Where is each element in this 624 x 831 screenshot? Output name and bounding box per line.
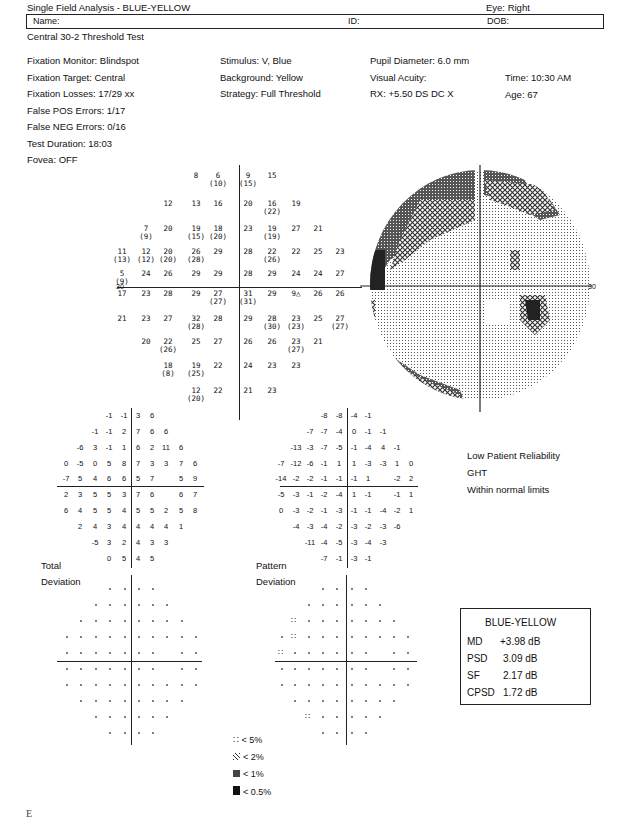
hatch-symbol-icon	[233, 753, 240, 760]
probability-dot	[138, 652, 140, 654]
patient-info-box: Name: ID: DOB:	[26, 14, 604, 29]
probability-dot	[308, 620, 310, 622]
threshold-value: 13	[185, 200, 207, 208]
probability-dot	[393, 684, 395, 686]
probability-symbol-5pct: ∷	[305, 713, 310, 721]
probability-dot	[181, 684, 183, 686]
probability-symbol-5pct: ∷	[291, 633, 296, 641]
ght-label: GHT	[467, 467, 487, 478]
deviation-value: 0	[347, 427, 361, 436]
probability-dot	[124, 716, 126, 718]
threshold-value: 25	[307, 248, 329, 256]
probability-dot	[109, 668, 111, 670]
probability-dot	[195, 684, 197, 686]
probability-dot	[195, 652, 197, 654]
deviation-value: -3	[376, 522, 390, 531]
threshold-value: 26(28)	[185, 248, 207, 264]
threshold-value: 23(27)	[285, 338, 307, 354]
probability-dot	[109, 732, 111, 734]
threshold-value: 20	[237, 200, 259, 208]
deviation-value: -1	[317, 506, 331, 515]
index-value: 2.17 dB	[503, 670, 537, 681]
threshold-value: 28	[157, 290, 179, 298]
deviation-value: -3	[376, 538, 390, 547]
threshold-value: 16(22)	[261, 200, 283, 216]
threshold-value: 29	[261, 270, 283, 278]
deviation-value: -1	[361, 427, 375, 436]
probability-dot	[109, 604, 111, 606]
probability-dot	[195, 636, 197, 638]
threshold-value: 25	[185, 338, 207, 346]
threshold-value: 22	[285, 248, 307, 256]
info-line: Fovea: OFF	[27, 154, 78, 165]
deviation-value: -3	[303, 522, 317, 531]
deviation-value: 7	[131, 490, 145, 499]
deviation-value: -1	[102, 427, 116, 436]
probability-dot	[152, 620, 154, 622]
deviation-value: -1	[102, 443, 116, 452]
threshold-value: 23	[329, 248, 351, 256]
deviation-value: 6	[188, 459, 202, 468]
deviation-value: 1	[347, 459, 361, 468]
deviation-value: 1	[404, 490, 418, 499]
deviation-value: 4	[131, 554, 145, 563]
threshold-value: 27(27)	[329, 315, 351, 331]
probability-dot	[322, 636, 324, 638]
probability-dot	[308, 636, 310, 638]
deviation-value: 5	[131, 506, 145, 515]
threshold-value: 18(8)	[157, 362, 179, 378]
probability-dot	[109, 716, 111, 718]
probability-dot	[351, 700, 353, 702]
deviation-value: 3	[102, 522, 116, 531]
deviation-value: 8	[117, 459, 131, 468]
probability-dot	[152, 668, 154, 670]
deviation-value: -4	[332, 490, 346, 499]
index-label: SF	[467, 670, 480, 681]
probability-dot	[138, 716, 140, 718]
deviation-value: 2	[404, 474, 418, 483]
deviation-value: -2	[390, 474, 404, 483]
threshold-value: 22	[207, 362, 229, 370]
solid-symbol-icon	[233, 786, 240, 795]
deviation-value: -11	[303, 538, 317, 547]
deviation-value: -1	[117, 411, 131, 420]
threshold-value: 22	[207, 387, 229, 395]
threshold-value: 27	[157, 315, 179, 323]
deviation-value: -6	[303, 459, 317, 468]
deviation-value: -1	[332, 554, 346, 563]
probability-dot	[109, 700, 111, 702]
deviation-value: 2	[117, 538, 131, 547]
probability-dot	[294, 652, 296, 654]
probability-dot	[109, 588, 111, 590]
deviation-value: -7	[59, 474, 73, 483]
deviation-value: -1	[361, 554, 375, 563]
threshold-value: 23	[261, 362, 283, 370]
probability-dot	[109, 652, 111, 654]
deviation-value: -3	[376, 459, 390, 468]
threshold-value: 19(25)	[185, 362, 207, 378]
probability-dot	[365, 588, 367, 590]
deviation-value: -7	[317, 443, 331, 452]
deviation-value: -2	[303, 506, 317, 515]
deviation-value: 0	[102, 554, 116, 563]
probability-dot	[365, 732, 367, 734]
probability-dot	[66, 668, 68, 670]
threshold-value: 18(20)	[207, 225, 229, 241]
dots-symbol-icon: ∷	[233, 735, 242, 745]
probability-dot	[80, 668, 82, 670]
probability-dot	[166, 700, 168, 702]
probability-dot	[80, 652, 82, 654]
deviation-value: -2	[332, 522, 346, 531]
probability-dot	[152, 604, 154, 606]
deviation-value: -5	[332, 443, 346, 452]
deviation-value: -7	[303, 427, 317, 436]
probability-dot	[336, 636, 338, 638]
deviation-value: 6	[59, 506, 73, 515]
probability-dot	[351, 604, 353, 606]
deviation-value: 4	[159, 522, 173, 531]
threshold-value: 9(15)	[237, 172, 259, 188]
probability-dot	[351, 684, 353, 686]
probability-dot	[336, 700, 338, 702]
info-line: Time: 10:30 AM	[505, 72, 571, 83]
probability-dot	[124, 636, 126, 638]
